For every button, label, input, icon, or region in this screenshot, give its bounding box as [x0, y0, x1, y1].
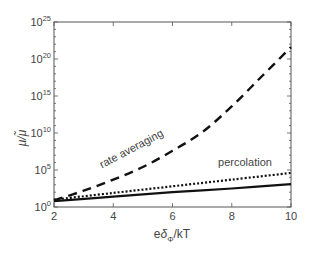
y-tick-label: 1015: [30, 88, 51, 102]
y-tick-label: 1020: [30, 51, 51, 65]
chart: 1001051010101510201025 246810 rate avera…: [0, 0, 310, 255]
x-tick-label: 2: [51, 210, 57, 222]
y-tick-label: 1010: [30, 125, 51, 139]
annotation-percolation: percolation: [218, 156, 272, 168]
y-axis-label: μ/μ̃: [14, 129, 29, 147]
y-tick-label: 100: [35, 199, 51, 213]
x-tick-label: 8: [229, 210, 235, 222]
x-tick-label: 10: [285, 210, 297, 222]
plot-area: [54, 22, 291, 207]
x-tick-label: 6: [169, 210, 175, 222]
y-tick-label: 105: [35, 162, 51, 176]
y-tick-label: 1025: [30, 14, 51, 28]
x-axis-label: eδΦ/kT: [154, 227, 191, 244]
x-tick-label: 4: [110, 210, 116, 222]
